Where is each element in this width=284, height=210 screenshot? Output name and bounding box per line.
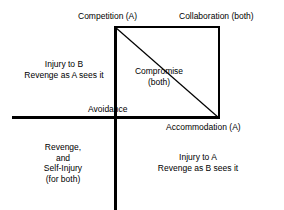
label-injury-to-b-line1: Injury to B	[16, 59, 112, 70]
label-compromise-line1: Compromise	[128, 66, 190, 77]
label-revenge-self-line4: (for both)	[20, 174, 106, 185]
label-competition: Competition (A)	[78, 11, 137, 22]
label-avoidance: Avoidance	[88, 104, 128, 115]
label-revenge-self-line3: Self-Injury	[20, 163, 106, 174]
label-injury-to-a: Injury to A Revenge as B sees it	[131, 152, 265, 173]
label-revenge-self-line2: and	[20, 153, 106, 164]
label-collaboration: Collaboration (both)	[179, 11, 254, 22]
label-injury-to-a-line2: Revenge as B sees it	[131, 163, 265, 174]
label-compromise-line2: (both)	[128, 77, 190, 88]
label-revenge-self-line1: Revenge,	[20, 142, 106, 153]
conflict-quadrant-diagram: Competition (A) Collaboration (both) Inj…	[0, 0, 284, 210]
label-revenge-and-self-injury: Revenge, and Self-Injury (for both)	[20, 142, 106, 184]
label-compromise: Compromise (both)	[128, 66, 190, 87]
label-injury-to-a-line1: Injury to A	[131, 152, 265, 163]
label-injury-to-b-line2: Revenge as A sees it	[16, 70, 112, 81]
label-injury-to-b: Injury to B Revenge as A sees it	[16, 59, 112, 80]
label-accommodation: Accommodation (A)	[166, 122, 241, 133]
